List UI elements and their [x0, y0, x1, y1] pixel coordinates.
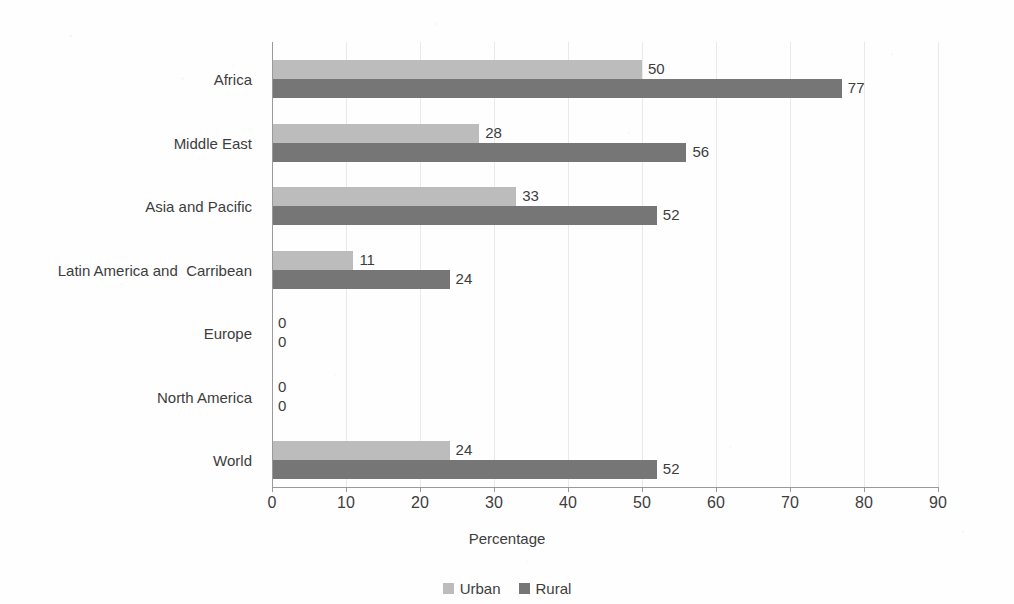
- x-tick-mark: [716, 487, 717, 492]
- bar-rural[interactable]: [272, 270, 450, 289]
- gridline: [716, 42, 717, 487]
- bar-urban[interactable]: [272, 124, 479, 143]
- legend-item-rural[interactable]: Rural: [519, 580, 572, 597]
- x-tick-label: 60: [707, 494, 725, 512]
- bar-urban[interactable]: [272, 441, 450, 460]
- bar-value-label: 0: [278, 313, 286, 332]
- bar-value-label: 11: [359, 250, 375, 269]
- bar-value-label: 0: [278, 332, 286, 351]
- x-tick-mark: [568, 487, 569, 492]
- x-tick-label: 40: [559, 494, 577, 512]
- category-label: World: [0, 453, 262, 469]
- gridline: [568, 42, 569, 487]
- bar-value-label: 52: [663, 459, 680, 478]
- bar-value-label: 77: [848, 78, 865, 97]
- gridline: [790, 42, 791, 487]
- bar-value-label: 52: [663, 205, 680, 224]
- x-tick-label: 70: [781, 494, 799, 512]
- bar-urban[interactable]: [272, 187, 516, 206]
- legend-swatch-urban-icon: [443, 583, 454, 594]
- chart-legend: Urban Rural: [0, 580, 1014, 597]
- bar-value-label: 56: [692, 142, 709, 161]
- category-label: North America: [0, 390, 262, 406]
- x-tick-label: 50: [633, 494, 651, 512]
- x-tick-label: 20: [411, 494, 429, 512]
- x-tick-label: 10: [337, 494, 355, 512]
- bar-chart-figure: AfricaMiddle EastAsia and PacificLatin A…: [0, 0, 1014, 604]
- x-tick-mark: [790, 487, 791, 492]
- category-label: Latin America and Carribean: [0, 263, 262, 279]
- bar-value-label: 0: [278, 377, 286, 396]
- legend-swatch-rural-icon: [519, 583, 530, 594]
- bar-rural[interactable]: [272, 460, 657, 479]
- x-tick-mark: [938, 487, 939, 492]
- plot-area: 507728563352112400002452: [272, 42, 938, 487]
- gridline: [494, 42, 495, 487]
- category-label: Europe: [0, 326, 262, 342]
- x-tick-mark: [346, 487, 347, 492]
- gridline: [420, 42, 421, 487]
- category-label: Asia and Pacific: [0, 199, 262, 215]
- y-axis-line: [272, 42, 273, 488]
- bar-urban[interactable]: [272, 60, 642, 79]
- bar-rural[interactable]: [272, 79, 842, 98]
- bar-urban[interactable]: [272, 251, 353, 270]
- legend-label-urban: Urban: [460, 580, 501, 597]
- x-tick-mark: [494, 487, 495, 492]
- category-axis-labels: AfricaMiddle EastAsia and PacificLatin A…: [0, 0, 262, 604]
- bar-rural[interactable]: [272, 206, 657, 225]
- x-tick-mark: [272, 487, 273, 492]
- bar-value-label: 24: [456, 440, 473, 459]
- x-tick-mark: [420, 487, 421, 492]
- bar-value-label: 24: [456, 269, 473, 288]
- legend-label-rural: Rural: [536, 580, 572, 597]
- legend-item-urban[interactable]: Urban: [443, 580, 501, 597]
- bar-rural[interactable]: [272, 143, 686, 162]
- bar-value-label: 50: [648, 59, 665, 78]
- bar-value-label: 33: [522, 186, 539, 205]
- category-label: Middle East: [0, 136, 262, 152]
- bar-value-label: 0: [278, 396, 286, 415]
- x-tick-label: 90: [929, 494, 947, 512]
- gridline: [864, 42, 865, 487]
- x-axis-line: [272, 487, 939, 488]
- bar-value-label: 28: [485, 123, 502, 142]
- x-tick-label: 0: [268, 494, 277, 512]
- x-tick-label: 30: [485, 494, 503, 512]
- x-tick-label: 80: [855, 494, 873, 512]
- category-label: Africa: [0, 72, 262, 88]
- x-axis-title: Percentage: [0, 530, 1014, 547]
- x-tick-mark: [642, 487, 643, 492]
- x-tick-mark: [864, 487, 865, 492]
- gridline: [642, 42, 643, 487]
- gridline: [938, 42, 939, 487]
